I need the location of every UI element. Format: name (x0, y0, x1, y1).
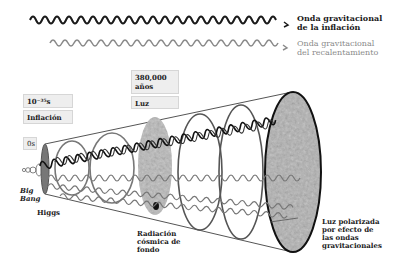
higgs-caption: Higgs (37, 209, 60, 217)
time-box-380000-years: 380,000 años (131, 70, 179, 94)
ring-3 (178, 114, 222, 230)
label-box-light: Luz (131, 96, 179, 109)
legend-reheating-label: Onda gravitacional del recalentamiento (297, 39, 378, 57)
cmb-caption: Radiación cósmica de fondo (137, 230, 181, 254)
polarized-light-caption: Luz polarizada por efecto de las ondas g… (322, 218, 382, 250)
inflation-ellipse (41, 144, 49, 194)
time-box-0s: 0s (23, 137, 37, 150)
big-bang-origin-icon (22, 164, 42, 176)
time-box-10e-35s: 10⁻³⁵s (23, 94, 73, 108)
big-bang-caption: Big Bang (20, 187, 40, 203)
legend-inflation-wave-icon (30, 17, 288, 28)
label-box-inflation: Inflación (23, 110, 73, 124)
ring-2 (90, 133, 134, 203)
legend-reheating-wave-icon (50, 40, 287, 50)
legend-inflation-label: Onda gravitacional de la inflación (297, 14, 382, 32)
